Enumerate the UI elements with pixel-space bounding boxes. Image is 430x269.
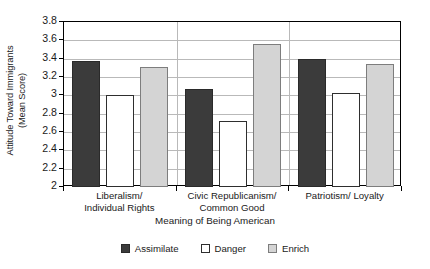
x-tick-mark (401, 186, 402, 191)
y-axis-title-line1: Attitude Toward Immigrants (6, 45, 18, 155)
y-tick-label: 2.2 (32, 161, 57, 173)
x-tick-label: Patriotism/ Loyalty (288, 190, 401, 202)
x-tick-label: Civic Republicanism/Common Good (176, 190, 289, 215)
gridline (64, 59, 400, 60)
plot-frame (63, 21, 401, 186)
chart-legend: AssimilateDangerEnrich (0, 243, 430, 254)
bar-enrich-1 (253, 44, 281, 187)
bar-enrich-2 (366, 64, 394, 187)
legend-item-assimilate[interactable]: Assimilate (121, 243, 179, 254)
legend-label: Enrich (282, 243, 309, 254)
x-tick-label-line: Civic Republicanism/ (176, 190, 289, 202)
x-tick-label: Liberalism/Individual Rights (63, 190, 176, 215)
gridline (64, 40, 400, 41)
group-separator (289, 22, 290, 185)
chart-figure: Attitude Toward Immigrants (Mean Score) … (0, 0, 430, 269)
group-separator (177, 22, 178, 185)
y-axis-title: Attitude Toward Immigrants (Mean Score) (0, 0, 34, 200)
bar-enrich-0 (140, 67, 168, 187)
bar-assimilate-1 (185, 89, 213, 187)
y-axis-title-line2: (Mean Score) (17, 45, 29, 155)
y-tick-label: 3.2 (32, 69, 57, 81)
x-axis-title: Meaning of Being American (0, 215, 430, 226)
plot-area (63, 21, 401, 186)
y-tick-label: 3.4 (32, 51, 57, 63)
bar-danger-2 (332, 93, 360, 187)
y-tick-label: 3.8 (32, 14, 57, 26)
legend-swatch-icon (121, 244, 130, 253)
gridline (64, 77, 400, 78)
x-tick-label-line: Patriotism/ Loyalty (288, 190, 401, 202)
legend-item-enrich[interactable]: Enrich (268, 243, 309, 254)
x-tick-label-line: Individual Rights (63, 202, 176, 214)
y-tick-label: 2.8 (32, 106, 57, 118)
y-tick-label: 3 (32, 87, 57, 99)
bar-danger-1 (219, 121, 247, 187)
y-tick-label: 3.6 (32, 32, 57, 44)
x-tick-label-line: Liberalism/ (63, 190, 176, 202)
legend-label: Danger (215, 243, 246, 254)
bar-assimilate-2 (298, 59, 326, 187)
legend-label: Assimilate (135, 243, 179, 254)
legend-swatch-icon (268, 244, 277, 253)
x-tick-label-line: Common Good (176, 202, 289, 214)
bar-danger-0 (106, 95, 134, 187)
legend-swatch-icon (201, 244, 210, 253)
legend-item-danger[interactable]: Danger (201, 243, 246, 254)
bar-assimilate-0 (72, 61, 100, 187)
y-tick-label: 2.4 (32, 142, 57, 154)
y-tick-label: 2.6 (32, 124, 57, 136)
y-tick-label: 2 (32, 179, 57, 191)
